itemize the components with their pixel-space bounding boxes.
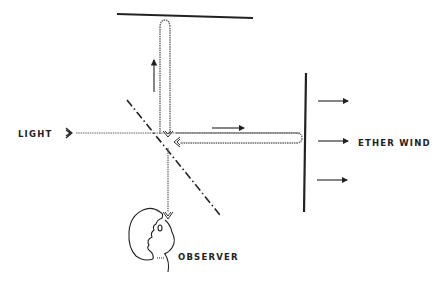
vertical-beam-path [160,20,170,134]
observer-label: OBSERVER [178,252,239,262]
beam-splitter [127,100,220,215]
right-mirror [304,73,306,212]
light-source-arrow [66,128,72,138]
return-arrowhead-horizontal [174,137,180,147]
return-arrowhead-vertical [163,131,173,137]
observer-arrowhead [163,212,173,219]
light-label: LIGHT [18,129,52,139]
top-mirror [117,14,253,18]
horizontal-beam-path [176,133,302,143]
ether-wind-label: ETHER WIND [358,138,431,148]
